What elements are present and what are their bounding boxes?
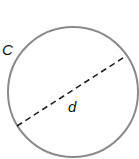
diameter-line bbox=[17, 56, 126, 126]
circle-diagram: C d bbox=[0, 0, 139, 159]
circle-outline bbox=[8, 27, 138, 157]
circumference-label: C bbox=[2, 41, 13, 58]
diameter-label: d bbox=[68, 98, 77, 115]
